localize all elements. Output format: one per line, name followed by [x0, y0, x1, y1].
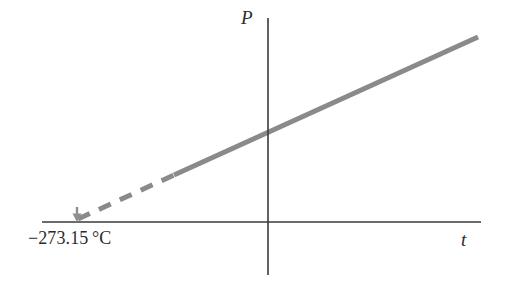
- pressure-temperature-diagram: P t −273.15 °C: [0, 0, 509, 293]
- diagram-canvas: [0, 0, 509, 293]
- extrapolation-dashed-line: [78, 175, 174, 219]
- pressure-axis-label: P: [241, 8, 253, 27]
- temperature-axis-label: t: [461, 230, 466, 249]
- absolute-zero-label: −273.15 °C: [28, 229, 111, 247]
- measured-pressure-line: [174, 37, 478, 175]
